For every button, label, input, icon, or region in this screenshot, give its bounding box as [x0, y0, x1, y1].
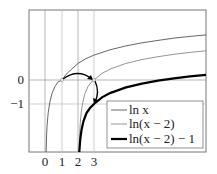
chart: 0 1 2 3 0 −1 ln x ln(x − 2) ln(x − 2) − …	[0, 0, 217, 174]
x-tick-1: 1	[59, 154, 66, 169]
point-marker	[93, 79, 96, 82]
legend-ln-x-minus-2: ln(x − 2)	[129, 116, 175, 131]
x-tick-2: 2	[75, 154, 82, 169]
y-tick-minus-1: −1	[10, 96, 24, 111]
x-tick-3: 3	[91, 154, 98, 169]
point-marker	[61, 79, 64, 82]
y-tick-0: 0	[18, 72, 25, 87]
legend-ln-x: ln x	[129, 102, 149, 117]
legend-ln-x-minus-2-minus-1: ln(x − 2) − 1	[129, 131, 195, 146]
x-tick-0: 0	[42, 154, 49, 169]
